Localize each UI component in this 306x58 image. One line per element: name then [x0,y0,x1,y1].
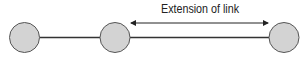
link-extension-diagram: Extension of link [0,0,306,58]
node-2 [100,23,130,53]
extension-label: Extension of link [161,2,240,16]
node-1 [10,23,40,53]
node-3 [269,23,299,53]
